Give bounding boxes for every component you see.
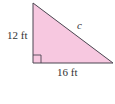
triangle-diagram: 12 ft 16 ft c [0, 0, 115, 104]
horizontal-leg-label: 16 ft [57, 67, 77, 78]
triangle-svg [0, 0, 115, 104]
right-triangle [33, 3, 113, 63]
vertical-leg-label: 12 ft [7, 30, 27, 41]
hypotenuse-label: c [77, 20, 82, 31]
